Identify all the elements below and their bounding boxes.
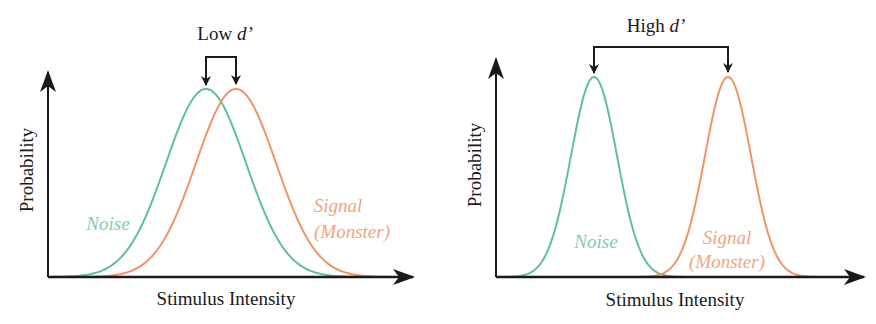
panel-high-d-prime: High d’ Probability Stimulus Intensity N… — [464, 15, 864, 310]
d-prime-bracket — [206, 57, 236, 84]
noise-curve — [498, 77, 858, 277]
panel-low-d-prime: Low d’ Probability Stimulus Intensity No… — [16, 23, 413, 309]
y-axis-label: Probability — [16, 127, 37, 212]
noise-curve — [50, 89, 408, 277]
x-axis-label: Stimulus Intensity — [157, 288, 296, 309]
signal-label-sub: (Monster) — [689, 251, 765, 273]
noise-label: Noise — [85, 213, 129, 234]
signal-curve — [498, 77, 858, 277]
panel-title: Low d’ — [197, 23, 252, 44]
signal-label: Signal — [314, 195, 363, 216]
panel-title: High d’ — [627, 15, 686, 36]
signal-label: Signal — [703, 227, 752, 248]
x-axis-label: Stimulus Intensity — [606, 289, 745, 310]
d-prime-bracket — [594, 47, 728, 72]
y-axis-label: Probability — [464, 122, 485, 207]
signal-label-sub: (Monster) — [314, 221, 390, 243]
noise-label: Noise — [573, 231, 617, 252]
figure: Low d’ Probability Stimulus Intensity No… — [0, 0, 876, 324]
